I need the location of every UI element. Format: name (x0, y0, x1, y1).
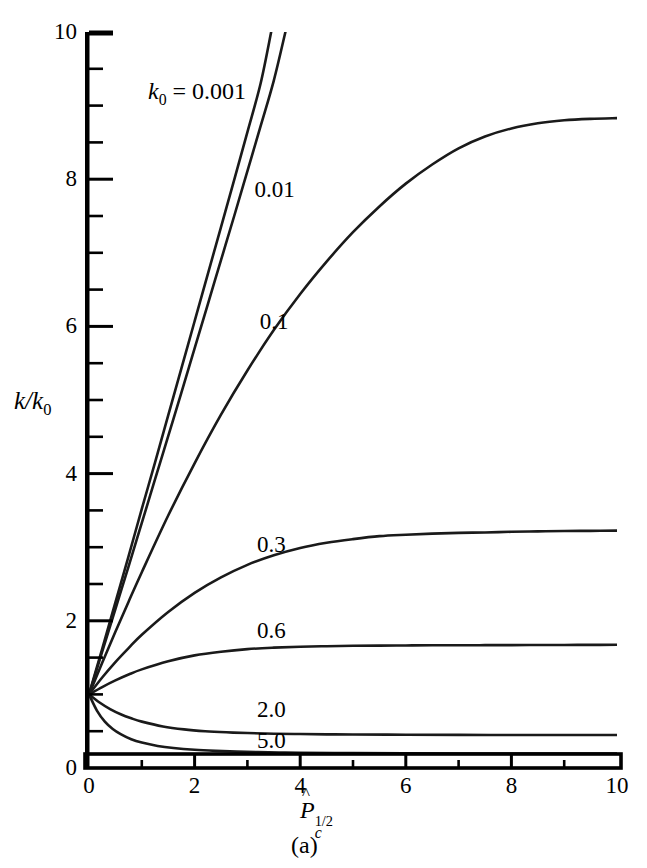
curve-0-001 (89, 32, 271, 694)
curve-label-0-3: 0.3 (257, 533, 286, 556)
y-tick-label: 2 (31, 609, 77, 632)
y-axis-spine (85, 32, 90, 768)
y-tick-label: 8 (31, 167, 77, 190)
figure-caption: (a) (291, 832, 318, 859)
annotation-k-subscript: 0 (159, 91, 167, 108)
x-axis-title-hat: ^ (302, 785, 310, 802)
x-tick-label: 10 (587, 774, 647, 797)
curve-0-6 (89, 645, 617, 695)
curve-0-3 (89, 531, 617, 695)
annotation-k-symbol: k (148, 78, 159, 104)
plot-svg (0, 0, 647, 868)
curve-label-0-1: 0.1 (260, 310, 289, 333)
y-axis-title-numerator: k (14, 387, 25, 414)
curve-5-0 (89, 694, 617, 753)
y-axis-title: k/k0 (14, 388, 51, 418)
curve-0-1 (89, 118, 617, 694)
y-axis-title-denominator: k (32, 387, 43, 414)
y-axis-title-denominator-subscript: 0 (43, 400, 51, 419)
x-axis-title: ^ P 1/2 c (300, 798, 328, 822)
axes-group (85, 32, 621, 768)
curve-group (89, 32, 617, 754)
y-tick-label: 10 (31, 20, 77, 43)
annotation-k0-equals: k0 = 0.001 (148, 78, 246, 109)
x-tick-label: 4 (270, 774, 330, 797)
curve-label-0-6: 0.6 (257, 619, 286, 642)
x-tick-label: 8 (481, 774, 541, 797)
annotation-k-value: = 0.001 (167, 78, 247, 104)
curve-label-2-0: 2.0 (257, 698, 286, 721)
x-tick-label: 2 (165, 774, 225, 797)
curve-2-0 (89, 694, 617, 735)
figure-container: 02468100246810 0.010.10.30.62.05.0 k0 = … (0, 0, 647, 868)
x-tick-label: 0 (59, 774, 119, 797)
curve-label-0-01: 0.01 (254, 178, 294, 201)
curve-0-01 (89, 32, 285, 694)
curve-label-5-0: 5.0 (257, 729, 286, 752)
y-tick-label: 6 (31, 314, 77, 337)
x-tick-label: 6 (376, 774, 436, 797)
y-tick-label: 4 (31, 462, 77, 485)
